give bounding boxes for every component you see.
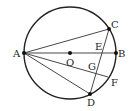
point-e-label: E [95, 41, 102, 52]
point-a-dot [22, 51, 26, 55]
segment-ad [24, 53, 90, 94]
point-g-label: G [88, 61, 96, 72]
point-c-label: C [111, 19, 119, 30]
geometry-diagram: ABOCDEGF [0, 0, 132, 111]
point-o-dot [68, 51, 72, 55]
point-d-label: D [87, 97, 95, 108]
point-a-label: A [12, 48, 21, 59]
point-f-label: F [111, 77, 118, 88]
point-d-dot [88, 92, 92, 96]
circle-diagram-canvas: ABOCDEGF [0, 0, 132, 111]
point-b-label: B [118, 48, 125, 59]
point-o-label: O [66, 57, 74, 68]
